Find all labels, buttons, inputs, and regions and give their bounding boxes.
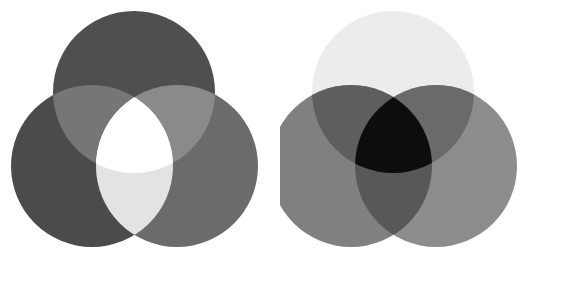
subtractive-diagram-canvas — [280, 0, 561, 281]
additive-mixing-diagram — [0, 0, 280, 281]
subtractive-mixing-diagram — [280, 0, 561, 281]
additive-diagram-canvas — [0, 0, 280, 281]
color-mixing-figure — [0, 0, 561, 281]
